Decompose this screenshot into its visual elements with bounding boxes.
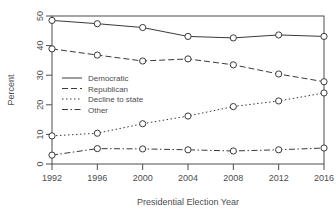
chart-legend: DemocraticRepublicanDecline to stateOthe… (62, 74, 144, 115)
y-tick-label: 20 (35, 100, 45, 110)
y-axis-title: Percent (6, 74, 16, 106)
legend-label: Democratic (88, 74, 128, 83)
y-axis: 01020304050 (35, 11, 52, 167)
data-point-marker (276, 71, 282, 77)
series-other (49, 145, 327, 158)
legend-item-other: Other (62, 106, 108, 115)
y-tick-label: 0 (35, 161, 45, 166)
data-point-marker (321, 33, 327, 39)
y-tick-label: 10 (35, 129, 45, 139)
data-point-marker (321, 145, 327, 151)
data-point-marker (230, 148, 236, 154)
data-point-marker (94, 146, 100, 152)
legend-label: Other (88, 106, 108, 115)
legend-item-democratic: Democratic (62, 74, 128, 83)
chart-figure: 01020304050 1992199620002004200820122016… (0, 0, 336, 214)
data-point-marker (321, 90, 327, 96)
x-tick-label: 2004 (178, 173, 198, 183)
data-point-marker (185, 56, 191, 62)
data-point-marker (94, 21, 100, 27)
legend-label: Decline to state (88, 95, 144, 104)
series-democratic (49, 17, 327, 41)
y-tick-label: 50 (35, 11, 45, 21)
data-point-marker (230, 35, 236, 41)
x-tick-label: 1996 (87, 173, 107, 183)
x-axis: 1992199620002004200820122016 (42, 164, 334, 183)
data-point-marker (94, 130, 100, 136)
chart-canvas: 01020304050 1992199620002004200820122016… (0, 0, 336, 214)
x-tick-label: 2008 (223, 173, 243, 183)
legend-item-decline-to-state: Decline to state (62, 95, 144, 104)
legend-item-republican: Republican (62, 85, 128, 94)
data-point-marker (185, 147, 191, 153)
legend-label: Republican (88, 85, 128, 94)
data-point-marker (140, 121, 146, 127)
data-point-marker (185, 33, 191, 39)
data-point-marker (49, 152, 55, 158)
data-point-marker (276, 98, 282, 104)
x-axis-title: Presidential Election Year (137, 197, 239, 207)
data-point-marker (49, 46, 55, 52)
data-point-marker (49, 133, 55, 139)
x-tick-label: 2012 (269, 173, 289, 183)
data-point-marker (140, 24, 146, 30)
data-point-marker (276, 147, 282, 153)
x-tick-label: 1992 (42, 173, 62, 183)
x-tick-label: 2000 (133, 173, 153, 183)
data-point-marker (185, 113, 191, 119)
data-point-marker (140, 146, 146, 152)
y-tick-label: 40 (35, 41, 45, 51)
y-tick-label: 30 (35, 70, 45, 80)
data-point-marker (140, 58, 146, 64)
data-point-marker (94, 52, 100, 58)
data-point-marker (321, 79, 327, 85)
x-tick-label: 2016 (314, 173, 334, 183)
data-point-marker (230, 103, 236, 109)
data-point-marker (49, 17, 55, 23)
data-point-marker (276, 32, 282, 38)
data-point-marker (230, 62, 236, 68)
